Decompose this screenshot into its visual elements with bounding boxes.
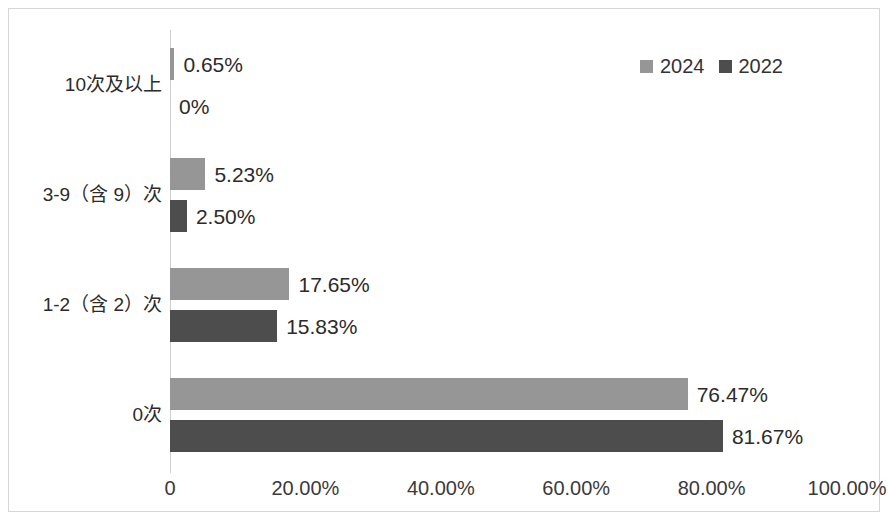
x-axis-tick-label: 100.00% bbox=[808, 478, 887, 498]
y-axis-category-labels: 10次及以上3-9（含 9）次1-2（含 2）次0次 bbox=[0, 30, 162, 473]
bar-value-label: 0.65% bbox=[183, 54, 243, 75]
plot-area: 0.65%0%5.23%2.50%17.65%15.83%76.47%81.67… bbox=[170, 30, 847, 473]
bar-value-label: 2.50% bbox=[196, 206, 256, 227]
y-axis-category-label: 1-2（含 2）次 bbox=[2, 295, 162, 314]
bar-2024-0[interactable] bbox=[170, 48, 174, 80]
bar-value-label: 17.65% bbox=[298, 274, 369, 295]
bar-2024-2[interactable] bbox=[170, 268, 289, 300]
x-axis-tick-label: 40.00% bbox=[407, 478, 475, 498]
bar-value-label: 5.23% bbox=[214, 164, 274, 185]
bar-row: 15.83% bbox=[170, 310, 357, 342]
bar-value-label: 15.83% bbox=[286, 316, 357, 337]
x-axis-tick-label: 20.00% bbox=[271, 478, 339, 498]
bar-row: 81.67% bbox=[170, 420, 803, 452]
bar-value-label: 76.47% bbox=[697, 384, 768, 405]
bar-2024-3[interactable] bbox=[170, 378, 688, 410]
x-axis-tick-label: 80.00% bbox=[678, 478, 746, 498]
x-axis-tick-label: 0 bbox=[164, 478, 175, 498]
bar-value-label: 0% bbox=[179, 96, 209, 117]
bar-row: 76.47% bbox=[170, 378, 768, 410]
bar-row: 0.65% bbox=[170, 48, 243, 80]
y-axis-category-label: 10次及以上 bbox=[2, 75, 162, 94]
bar-row: 17.65% bbox=[170, 268, 370, 300]
bar-2022-3[interactable] bbox=[170, 420, 723, 452]
bar-row: 0% bbox=[170, 90, 209, 122]
chart-frame-top-border bbox=[8, 8, 880, 9]
bar-value-label: 81.67% bbox=[732, 426, 803, 447]
bar-row: 5.23% bbox=[170, 158, 274, 190]
chart-frame-right-border bbox=[879, 8, 880, 512]
bar-2024-1[interactable] bbox=[170, 158, 205, 190]
chart-frame-bottom-border bbox=[8, 511, 880, 512]
y-axis-category-label: 3-9（含 9）次 bbox=[2, 185, 162, 204]
bar-2022-2[interactable] bbox=[170, 310, 277, 342]
y-axis-category-label: 0次 bbox=[2, 405, 162, 424]
bar-2022-1[interactable] bbox=[170, 200, 187, 232]
x-axis-tick-labels: 020.00%40.00%60.00%80.00%100.00% bbox=[0, 478, 888, 508]
x-axis-tick-label: 60.00% bbox=[542, 478, 610, 498]
bar-chart: 20242022 10次及以上3-9（含 9）次1-2（含 2）次0次 0.65… bbox=[0, 0, 888, 520]
bar-row: 2.50% bbox=[170, 200, 255, 232]
